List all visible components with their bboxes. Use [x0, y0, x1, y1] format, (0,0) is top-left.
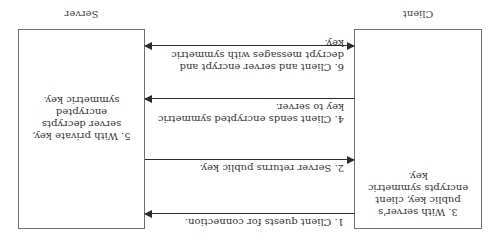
arrow-right-icon [145, 213, 354, 214]
figure-caption-fragment [136, 245, 356, 249]
server-box: 5. With private key, server decrypts enc… [18, 29, 145, 229]
arrow-right-icon [145, 98, 354, 99]
server-label: Server [18, 9, 145, 20]
server-step-5-note: 5. With private key, server decrypts enc… [29, 94, 134, 142]
client-step-3-note: 3. With server's public key, client encr… [365, 170, 471, 218]
message-6-label: 6. Client and server encrypt and decrypt… [154, 37, 344, 73]
client-box: 3. With server's public key, client encr… [354, 29, 482, 229]
message-2-label: 2. Server returns public key. [154, 162, 344, 174]
client-label: Client [354, 9, 482, 20]
ssl-handshake-diagram: 3. With server's public key, client encr… [0, 0, 496, 249]
message-1-label: 1. Client quests for connection. [154, 216, 344, 228]
arrow-left-icon [145, 159, 354, 160]
message-4-label: 4. Client sends encrypted symmetric key … [154, 101, 344, 125]
arrow-bidirectional-icon [145, 45, 354, 46]
